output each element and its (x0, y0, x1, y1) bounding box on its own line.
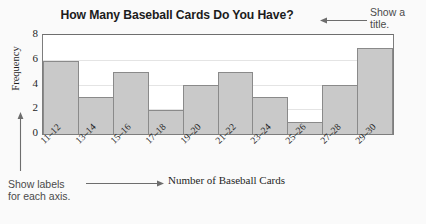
x-tick-slot-5: 21–22 (217, 134, 252, 176)
x-tick-slot-0: 11–12 (42, 134, 77, 176)
x-axis-ticks: 11–12 13–14 15–16 17–18 19–20 21–22 23–2… (42, 134, 392, 176)
annotation-show-a-title-line2: title. (370, 18, 426, 30)
x-tick-slot-1: 13–14 (77, 134, 112, 176)
annotation-show-labels-line2: for each axis. (8, 190, 92, 202)
x-tick-slot-6: 23–24 (252, 134, 287, 176)
chart-figure: How Many Baseball Cards Do You Have? Sho… (0, 0, 426, 224)
bar-21-22 (218, 72, 254, 134)
x-tick-slot-3: 17–18 (147, 134, 182, 176)
annotation-show-labels-line1: Show labels (8, 178, 92, 190)
x-tick-slot-9: 29–30 (357, 134, 392, 176)
chart-title: How Many Baseball Cards Do You Have? (42, 8, 312, 22)
bar-11-12 (43, 61, 79, 135)
x-tick-slot-7: 25–26 (287, 134, 322, 176)
bar-15-16 (113, 72, 149, 134)
plot-area (42, 34, 394, 135)
x-tick-slot-8: 27–28 (322, 134, 357, 176)
up-arrow-icon (17, 112, 24, 172)
x-tick-slot-2: 15–16 (112, 134, 147, 176)
x-tick-slot-4: 19–20 (182, 134, 217, 176)
bar-series (43, 35, 393, 134)
annotation-show-a-title: Show a title. (370, 6, 426, 30)
y-axis-label: Frequency (10, 30, 21, 108)
left-arrow-icon (320, 17, 368, 24)
bar-29-30 (357, 48, 393, 134)
x-axis-label: Number of Baseball Cards (168, 174, 285, 186)
right-arrow-icon (86, 180, 164, 187)
annotation-show-labels: Show labels for each axis. (8, 178, 92, 202)
annotation-show-a-title-line1: Show a (370, 6, 426, 18)
